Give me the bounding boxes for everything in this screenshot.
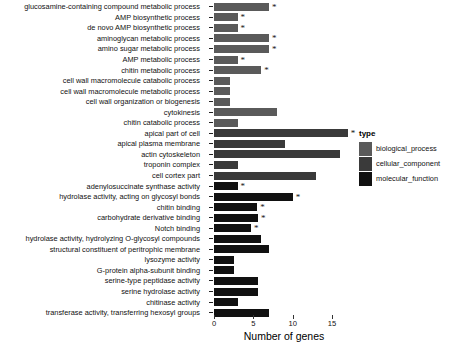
y-axis-tick: [209, 59, 213, 60]
significance-marker: *: [296, 193, 301, 201]
bar-row-label: apical plasma membrane: [0, 139, 200, 148]
y-axis-tick: [209, 207, 213, 208]
bar-row: chitinase activity: [0, 297, 459, 308]
bar: [214, 214, 258, 222]
bar-container: *: [214, 223, 258, 234]
bar: [214, 298, 238, 306]
bar-row-label: cell wall macromolecule catabolic proces…: [0, 76, 200, 85]
bar-row-label: chitin binding: [0, 203, 200, 212]
bar-row-label: structural constituent of peritrophic me…: [0, 245, 200, 254]
bar: [214, 203, 257, 211]
y-axis-tick: [209, 154, 213, 155]
significance-marker: *: [260, 203, 265, 211]
bar-row: structural constituent of peritrophic me…: [0, 244, 459, 255]
bar-row-label: apical part of cell: [0, 129, 200, 138]
bar-container: [214, 276, 258, 287]
y-axis-tick: [209, 38, 213, 39]
gene-ontology-bar-chart: glucosamine-containing compound metaboli…: [0, 0, 459, 349]
bar: [214, 288, 258, 296]
y-axis-tick: [209, 280, 213, 281]
legend-item[interactable]: cellular_component: [359, 156, 457, 171]
y-axis-tick: [209, 6, 213, 7]
bar-row-label: chitinase activity: [0, 298, 200, 307]
bar-container: *: [214, 202, 265, 213]
bar-row-label: amino sugar metabolic process: [0, 44, 200, 53]
x-axis-tick-label: 0: [212, 319, 216, 328]
bar-container: *: [214, 65, 269, 76]
bar-container: *: [214, 2, 277, 13]
bar-row: amino sugar metabolic process*: [0, 44, 459, 55]
significance-marker: *: [241, 182, 246, 190]
significance-marker: *: [254, 224, 259, 232]
bar-row: AMP biosynthetic process*: [0, 12, 459, 23]
bar: [214, 172, 316, 180]
bar-row-label: G-protein alpha-subunit binding: [0, 266, 200, 275]
bar-container: [214, 149, 340, 160]
bar-row-label: chitin metabolic process: [0, 66, 200, 75]
bar-row: Notch binding*: [0, 223, 459, 234]
bar-row: serine hydrolase activity: [0, 286, 459, 297]
bar-row-label: hydrolase activity, hydrolyzing O-glycos…: [0, 234, 200, 243]
bar-row-label: serine hydrolase activity: [0, 287, 200, 296]
bar-container: [214, 118, 238, 129]
legend-item[interactable]: biological_process: [359, 141, 457, 156]
legend-label: cellular_component: [376, 159, 440, 168]
y-axis-tick: [209, 259, 213, 260]
y-axis-tick: [209, 80, 213, 81]
y-axis-tick: [209, 164, 213, 165]
bar-container: [214, 265, 234, 276]
bar-row-label: AMP biosynthetic process: [0, 13, 200, 22]
y-axis-tick: [209, 112, 213, 113]
y-axis-tick: [209, 122, 213, 123]
y-axis-tick: [209, 196, 213, 197]
bar: [214, 224, 251, 232]
legend-swatch: [359, 142, 372, 156]
bar-container: *: [214, 212, 266, 223]
bar-row: G-protein alpha-subunit binding: [0, 265, 459, 276]
bar: [214, 182, 238, 190]
legend-item[interactable]: molecular_function: [359, 171, 457, 186]
bar-row: aminoglycan metabolic process*: [0, 33, 459, 44]
x-axis-tick-label: 15: [328, 319, 336, 328]
bar-container: [214, 139, 285, 150]
bar-row-label: Notch binding: [0, 224, 200, 233]
bar-container: *: [214, 54, 245, 65]
bar-container: [214, 255, 234, 266]
bar-row-label: adenylosuccinate synthase activity: [0, 182, 200, 191]
bar: [214, 56, 238, 64]
bar-container: [214, 86, 230, 97]
bar-container: [214, 107, 277, 118]
bar: [214, 13, 238, 21]
bar-row-label: glucosamine-containing compound metaboli…: [0, 2, 200, 11]
bar: [214, 87, 230, 95]
bar: [214, 24, 238, 32]
bar-container: *: [214, 128, 355, 139]
y-axis-tick: [209, 91, 213, 92]
bar: [214, 150, 340, 158]
bar-row-label: cytokinesis: [0, 108, 200, 117]
y-axis-tick: [209, 270, 213, 271]
bar-row: chitin catabolic process: [0, 118, 459, 129]
bar-row-label: cell cortex part: [0, 171, 200, 180]
x-axis-tick-label: 10: [288, 319, 296, 328]
y-axis-tick: [209, 249, 213, 250]
bar: [214, 108, 277, 116]
bar-row-label: cell wall organization or biogenesis: [0, 97, 200, 106]
significance-marker: *: [272, 3, 277, 11]
bar: [214, 45, 269, 53]
significance-marker: *: [272, 34, 277, 42]
bar-row: lysozyme activity: [0, 255, 459, 266]
bar-row: cytokinesis: [0, 107, 459, 118]
bar-container: [214, 297, 238, 308]
bar: [214, 98, 230, 106]
bar: [214, 129, 348, 137]
y-axis-tick: [209, 312, 213, 313]
x-axis-tick: [214, 315, 215, 319]
bar: [214, 256, 234, 264]
significance-marker: *: [264, 66, 269, 74]
bar-container: *: [214, 44, 277, 55]
x-axis-title: Number of genes: [214, 330, 354, 342]
bar: [214, 277, 258, 285]
y-axis-tick: [209, 101, 213, 102]
bar-row-label: serine-type peptidase activity: [0, 276, 200, 285]
